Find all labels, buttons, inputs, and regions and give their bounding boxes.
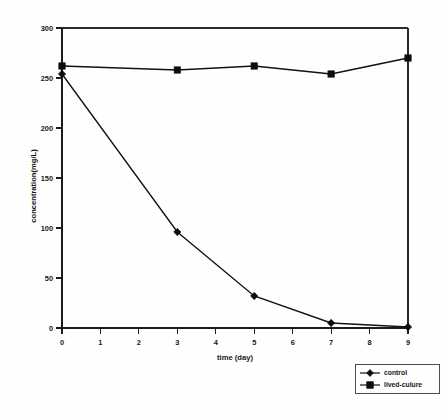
- x-axis-title: time (day): [217, 353, 253, 362]
- x-tick-label-1: 1: [98, 338, 102, 347]
- y-axis-title: concentration(mg/L): [29, 149, 38, 223]
- chart-figure: 0 50 100 150 200 250 300 0 1 2 3 4 5: [0, 0, 444, 417]
- data-point-control-day-7: [327, 319, 334, 326]
- y-tick-label-100: 100: [41, 224, 53, 233]
- x-axis-ticks: 0 1 2 3 4 5 6 7 8 9: [60, 328, 410, 347]
- x-tick-label-6: 6: [291, 338, 295, 347]
- data-point-lived-culure-day-3: [174, 67, 180, 73]
- plot-frame: [62, 28, 408, 328]
- x-tick-label-7: 7: [329, 338, 333, 347]
- series-lived-culure-markers: [59, 55, 411, 77]
- legend-label-control: control: [384, 369, 407, 376]
- data-point-lived-culure-day-9: [405, 55, 411, 61]
- series-control-markers: [58, 70, 411, 330]
- data-point-lived-culure-day-0: [59, 63, 65, 69]
- x-tick-label-4: 4: [214, 338, 219, 347]
- data-point-lived-culure-day-5: [251, 63, 257, 69]
- x-tick-label-0: 0: [60, 338, 64, 347]
- legend-label-lived-culure: lived-culure: [384, 381, 422, 388]
- y-tick-label-250: 250: [41, 74, 53, 83]
- y-tick-label-200: 200: [41, 124, 53, 133]
- y-tick-label-50: 50: [45, 274, 53, 283]
- data-point-control-day-9: [404, 323, 411, 330]
- chart-legend[interactable]: control lived-culure: [356, 365, 440, 394]
- square-marker-icon: [367, 382, 374, 389]
- x-tick-label-2: 2: [137, 338, 141, 347]
- y-axis-ticks: 0 50 100 150 200 250 300: [41, 24, 62, 333]
- x-tick-label-3: 3: [175, 338, 179, 347]
- y-tick-label-150: 150: [41, 174, 53, 183]
- data-point-lived-culure-day-7: [328, 71, 334, 77]
- series-lived-culure-line: [62, 58, 408, 74]
- y-tick-label-0: 0: [49, 324, 53, 333]
- x-tick-label-5: 5: [252, 338, 256, 347]
- series-lived-culure: [59, 55, 411, 77]
- x-tick-label-9: 9: [406, 338, 410, 347]
- line-chart: 0 50 100 150 200 250 300 0 1 2 3 4 5: [0, 0, 444, 417]
- y-tick-label-300: 300: [41, 24, 53, 33]
- legend-entry-lived-culure[interactable]: lived-culure: [360, 381, 422, 388]
- x-tick-label-8: 8: [368, 338, 372, 347]
- series-control-line: [62, 74, 408, 327]
- series-control: [58, 70, 411, 330]
